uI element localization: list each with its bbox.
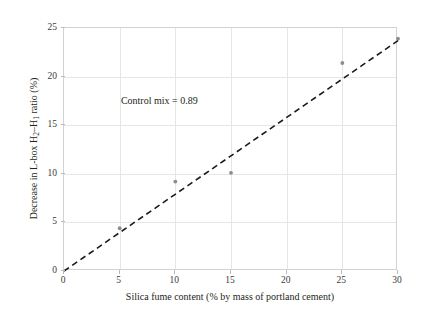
plot-area (63, 27, 397, 270)
x-axis-title: Silica fume content (% by mass of portla… (63, 291, 397, 303)
data-point-marker (173, 180, 177, 184)
y-axis-tick-mark (61, 221, 65, 222)
y-axis-tick-mark (61, 27, 65, 28)
x-axis-tick-label: 10 (159, 275, 189, 286)
x-axis-tick-label: 5 (104, 275, 134, 286)
y-axis-title: Decrease in L-box H2–H1 ratio (%) (28, 27, 41, 270)
trend-line (64, 41, 398, 271)
x-axis-tick-mark (230, 270, 231, 274)
y-axis-title-sub2: 1 (32, 116, 41, 120)
x-axis-tick-label: 30 (382, 275, 412, 286)
control-mix-annotation: Control mix = 0.89 (121, 95, 198, 107)
y-axis-title-suffix: ratio (%) (28, 78, 39, 116)
x-axis-tick-mark (119, 270, 120, 274)
x-axis-tick-mark (174, 270, 175, 274)
x-axis-tick-label: 20 (271, 275, 301, 286)
x-axis-tick-label: 0 (48, 275, 78, 286)
x-axis-tick-mark (397, 270, 398, 274)
chart-figure: 0510152025 051015202530 Silica fume cont… (0, 0, 432, 315)
data-point-marker (229, 171, 233, 175)
x-axis-tick-labels: 051015202530 (63, 275, 397, 289)
series-layer (64, 28, 398, 271)
data-point-marker (396, 37, 400, 41)
y-axis-tick-mark (61, 124, 65, 125)
y-axis-title-prefix: Decrease in L-box H (28, 136, 39, 220)
y-axis-title-sub1: 2 (32, 132, 41, 136)
x-axis-tick-mark (63, 270, 64, 274)
x-axis-tick-label: 15 (215, 275, 245, 286)
y-axis-tick-mark (61, 173, 65, 174)
data-point-marker (118, 226, 122, 230)
data-point-marker (340, 61, 344, 65)
x-axis-tick-label: 25 (326, 275, 356, 286)
y-axis-tick-mark (61, 76, 65, 77)
x-axis-tick-mark (341, 270, 342, 274)
x-axis-tick-mark (286, 270, 287, 274)
y-axis-title-mid: –H (28, 120, 39, 132)
